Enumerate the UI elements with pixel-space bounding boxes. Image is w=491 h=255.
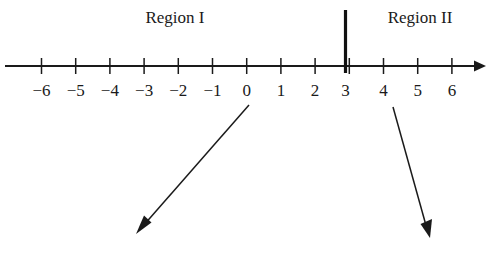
- tick-label: −2: [169, 81, 187, 100]
- axis-right-arrowhead: [474, 61, 486, 72]
- tick-label: 6: [448, 81, 457, 100]
- left-callout-arrow: [136, 105, 249, 234]
- number-line-figure: Region I Region II −6 −5 −4: [0, 0, 491, 255]
- tick-label: 1: [277, 81, 286, 100]
- tick-labels: −6 −5 −4 −3 −2 −1 0 1 2 3 4 5 6: [32, 81, 456, 100]
- tick-label: −3: [135, 81, 153, 100]
- right-callout-arrowhead: [421, 219, 433, 238]
- tick-label: 3: [341, 81, 350, 100]
- tick-label: −1: [203, 81, 221, 100]
- tick-label: 4: [379, 81, 388, 100]
- tick-label: 5: [413, 81, 422, 100]
- region-label-right: Region II: [388, 8, 453, 27]
- right-callout-arrow: [393, 107, 432, 238]
- number-line-diagram: Region I Region II −6 −5 −4: [0, 0, 491, 255]
- tick-label: −4: [101, 81, 120, 100]
- tick-label: −6: [32, 81, 50, 100]
- tick-label: 0: [242, 81, 251, 100]
- tick-label: 2: [311, 81, 320, 100]
- region-label-left: Region I: [145, 8, 204, 27]
- tick-label: −5: [67, 81, 85, 100]
